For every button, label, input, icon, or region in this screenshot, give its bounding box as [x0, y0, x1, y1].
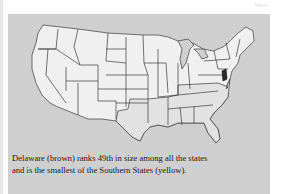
map-caption: Delaware (brown) ranks 49th in size amon… — [12, 152, 268, 176]
delaware-highlight — [222, 69, 227, 81]
header-label: Name — [255, 2, 268, 8]
page-edge — [0, 0, 3, 194]
us-map — [18, 19, 268, 149]
caption-line-1: Delaware (brown) ranks 49th in size amon… — [12, 152, 268, 164]
caption-line-2: and is the smallest of the Southern Stat… — [12, 164, 268, 176]
figure-panel: Delaware (brown) ranks 49th in size amon… — [8, 14, 270, 194]
